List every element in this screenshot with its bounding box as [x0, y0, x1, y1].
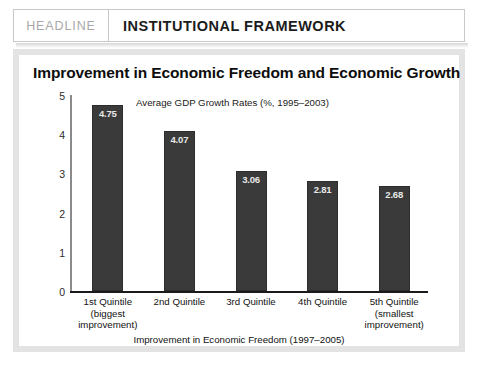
bar: 4.75: [92, 105, 123, 291]
category-label-sub: (smallest: [346, 308, 442, 320]
headline-title: INSTITUTIONAL FRAMEWORK: [109, 10, 346, 41]
category-label-main: 1st Quintile: [84, 296, 132, 307]
y-axis-tick: 1: [59, 247, 65, 259]
bar: 3.06: [236, 171, 267, 291]
category-label-main: 5th Quintile: [370, 296, 419, 307]
header-drop-shadow: [16, 43, 468, 48]
bar-value-label: 2.68: [380, 189, 409, 200]
x-axis-title: Improvement in Economic Freedom (1997–20…: [19, 334, 459, 345]
figure-inner: Improvement in Economic Freedom and Econ…: [19, 55, 459, 346]
category-label-main: 2nd Quintile: [154, 296, 206, 307]
y-axis-line: [70, 95, 72, 293]
headline-kicker: HEADLINE: [14, 10, 109, 41]
category-label-main: 3rd Quintile: [226, 296, 276, 307]
bar: 2.81: [307, 181, 338, 291]
y-axis-tick: 2: [59, 208, 65, 220]
headline-bar: HEADLINE INSTITUTIONAL FRAMEWORK: [13, 9, 465, 42]
plot-area: 012345 4.754.073.062.812.68: [70, 95, 466, 293]
y-axis-tick: 4: [59, 129, 65, 141]
chart-title: Improvement in Economic Freedom and Econ…: [33, 64, 460, 82]
category-label-sub: improvement): [346, 319, 442, 331]
bar-value-label: 4.07: [165, 134, 194, 145]
bar-value-label: 3.06: [237, 174, 266, 185]
x-axis-line: [70, 291, 428, 293]
bar-value-label: 2.81: [308, 184, 337, 195]
figure-frame: Improvement in Economic Freedom and Econ…: [13, 49, 465, 352]
category-label-main: 4th Quintile: [298, 296, 347, 307]
y-axis-tick: 3: [59, 168, 65, 180]
bar-value-label: 4.75: [93, 108, 122, 119]
bar: 2.68: [379, 186, 410, 291]
x-axis-category-label: 5th Quintile(smallestimprovement): [346, 296, 442, 331]
bar: 4.07: [164, 131, 195, 291]
category-label-sub: (biggest: [60, 308, 156, 320]
y-axis-tick: 5: [59, 90, 65, 102]
category-label-sub: improvement): [60, 319, 156, 331]
